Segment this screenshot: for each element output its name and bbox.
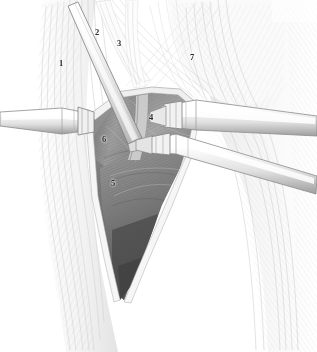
callout-7[interactable]: 7	[190, 53, 194, 62]
retractor-left-horizontal[interactable]	[0, 107, 94, 135]
callout-1[interactable]: 1	[59, 59, 63, 68]
illustration-canvas	[0, 0, 317, 352]
callout-6[interactable]: 6	[102, 135, 106, 144]
callout-2[interactable]: 2	[95, 28, 99, 37]
callout-3[interactable]: 3	[117, 39, 121, 48]
callout-5[interactable]: 5	[111, 179, 115, 188]
anatomical-figure: 1 2 3 4 5 6 7	[0, 0, 317, 352]
callout-4[interactable]: 4	[149, 113, 153, 122]
